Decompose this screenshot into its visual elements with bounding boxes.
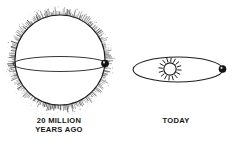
sun-body [164, 63, 176, 75]
caption-today-line1: TODAY [117, 116, 235, 125]
expanded-sun-body [15, 15, 105, 105]
caption-past-line2: YEARS AGO [0, 125, 118, 134]
earth-past [101, 60, 108, 67]
caption-today: TODAY [117, 116, 235, 125]
caption-past-line1: 20 MILLION [0, 116, 118, 125]
illustration-canvas: 20 MILLION YEARS AGO TODAY [0, 0, 235, 144]
caption-past: 20 MILLION YEARS AGO [0, 116, 118, 135]
panel-past: 20 MILLION YEARS AGO [0, 0, 118, 144]
earth-highlight-past [103, 61, 105, 63]
earth-today [219, 65, 226, 72]
panel-today: TODAY [117, 0, 235, 144]
earth-highlight-today [220, 67, 222, 69]
